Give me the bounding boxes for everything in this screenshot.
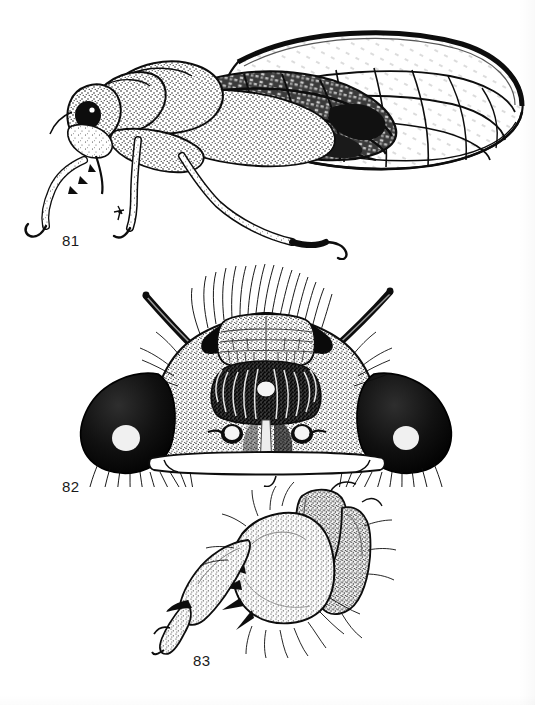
figure-82-label: 82 — [62, 478, 80, 495]
apical-filament — [330, 482, 356, 492]
detached-seta-mark — [114, 206, 124, 220]
median-ocellus — [257, 381, 276, 397]
scan-edge-bottom — [0, 695, 535, 705]
illustration-plate: 81 — [0, 0, 535, 705]
figure-81 — [0, 0, 535, 260]
apical-filament-2 — [362, 499, 382, 506]
femur — [232, 513, 334, 623]
tarsus — [152, 606, 191, 654]
figure-81-label: 81 — [62, 232, 80, 249]
postclypeus-upper — [217, 314, 314, 366]
figure-82 — [30, 262, 500, 487]
figure-83 — [130, 478, 410, 658]
frons-median-boss — [211, 361, 321, 425]
figure-83-label: 83 — [193, 652, 211, 669]
hind-leg — [182, 156, 346, 259]
foreleg — [26, 160, 96, 237]
